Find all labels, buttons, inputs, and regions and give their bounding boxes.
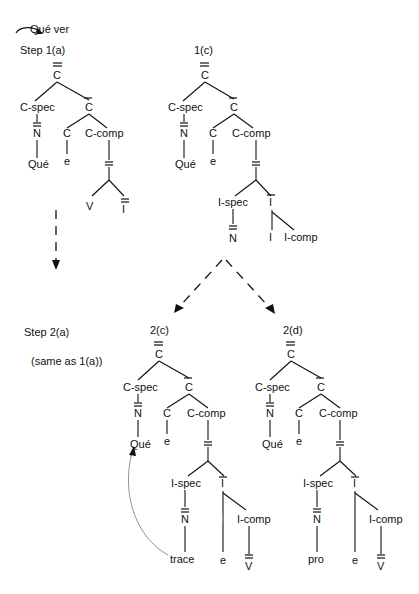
node-C-head: C <box>295 407 303 419</box>
branching-dashed-arrows <box>174 260 275 314</box>
node-C-bar: C <box>317 381 325 393</box>
step2-label: Step 2(a) <box>24 326 69 338</box>
label-2d: 2(d) <box>283 324 303 336</box>
tree-1c: 1(c) C C-spec C N Qué C e C-comp I-spec … <box>168 44 318 244</box>
node-N: N <box>266 407 274 419</box>
dashed-arrow-down <box>52 210 60 270</box>
node-C-comp: C-comp <box>232 127 271 139</box>
node-C-comp: C-comp <box>85 127 124 139</box>
node-C-bar: C <box>85 101 93 113</box>
same-as-label: (same as 1(a)) <box>31 355 103 367</box>
arrow-down-icon <box>52 260 60 270</box>
node-C-head: C <box>209 127 217 139</box>
tree-1a: Step 1(a) C C-spec C N Qué C e C-comp V … <box>20 44 129 215</box>
node-I-spec: I-spec <box>171 477 201 489</box>
leaf-e: e <box>296 435 302 447</box>
leaf-e: e <box>64 155 70 167</box>
leaf-e: e <box>164 435 170 447</box>
node-I-comp: I-comp <box>284 231 318 243</box>
leaf-I-bar: I <box>122 203 125 215</box>
node-C-spec: C-spec <box>20 101 55 113</box>
node-I-bar: I <box>269 196 272 208</box>
leaf-V: V <box>245 560 253 572</box>
leaf-pro: pro <box>308 553 324 565</box>
leaf-V: V <box>86 200 94 212</box>
top-label: Qué ver <box>30 23 69 35</box>
node-N-ispec: N <box>313 513 321 525</box>
node-N: N <box>33 127 41 139</box>
syntax-tree-diagram: Qué ver Step 1(a) C C-spec C N Qué C e C… <box>0 0 419 594</box>
leaf-trace: trace <box>170 553 194 565</box>
node-C-bar: C <box>230 101 238 113</box>
node-N: N <box>180 127 188 139</box>
node-C: C <box>201 69 209 81</box>
node-N-ispec: N <box>181 513 189 525</box>
node-I-head: I <box>220 513 223 525</box>
leaf-e: e <box>210 155 216 167</box>
leaf-V: V <box>377 560 385 572</box>
node-I-head: I <box>269 231 272 243</box>
leaf-que: Qué <box>28 158 49 170</box>
tree-2c: 2(c) C C-spec C N Qué C e C-comp I-spec … <box>123 324 271 572</box>
arrow-right-icon <box>265 304 275 314</box>
node-C: C <box>155 348 163 360</box>
leaf-e-infl: e <box>220 554 226 566</box>
node-C-head: C <box>63 127 71 139</box>
label-2c: 2(c) <box>150 324 169 336</box>
label-1c: 1(c) <box>194 44 213 56</box>
node-C-comp: C-comp <box>187 407 226 419</box>
leaf-e-infl: e <box>352 554 358 566</box>
tree-2d: 2(d) C C-spec C N Qué C e C-comp I-spec … <box>255 324 403 572</box>
node-C: C <box>287 348 295 360</box>
node-C: C <box>53 69 61 81</box>
node-C-comp: C-comp <box>319 407 358 419</box>
node-I-bar: I <box>221 477 224 489</box>
movement-arrow <box>128 452 168 555</box>
node-I-bar: I <box>353 477 356 489</box>
leaf-que: Qué <box>175 158 196 170</box>
node-C-spec: C-spec <box>123 381 158 393</box>
node-I-spec: I-spec <box>303 477 333 489</box>
step1-label: Step 1(a) <box>20 44 65 56</box>
node-I-comp: I-comp <box>369 513 403 525</box>
node-N-ispec: N <box>229 232 237 244</box>
node-N: N <box>134 407 142 419</box>
node-C-spec: C-spec <box>255 381 290 393</box>
node-C-bar: C <box>185 381 193 393</box>
arrow-left-icon <box>174 304 184 313</box>
leaf-que: Qué <box>262 438 283 450</box>
node-I-comp: I-comp <box>237 513 271 525</box>
node-C-spec: C-spec <box>168 101 203 113</box>
node-I-spec: I-spec <box>218 196 248 208</box>
node-C-head: C <box>163 407 171 419</box>
top-label-group: Qué ver <box>16 23 69 35</box>
